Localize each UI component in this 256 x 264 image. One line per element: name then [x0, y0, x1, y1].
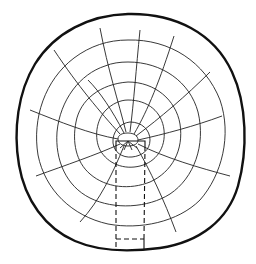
- ray: [36, 144, 120, 176]
- bark-outline: [17, 14, 245, 250]
- tree-cross-section-diagram: [0, 0, 256, 264]
- ray: [130, 30, 140, 132]
- pith-ring: [118, 133, 138, 146]
- ray: [30, 110, 118, 139]
- ray: [54, 50, 120, 134]
- ring-4: [75, 82, 181, 187]
- sample-strip: [116, 146, 145, 249]
- ray: [88, 80, 124, 133]
- ring-2: [113, 122, 150, 157]
- ray: [134, 36, 174, 134]
- growth-rings: [37, 40, 226, 226]
- radial-rays: [30, 28, 230, 232]
- ray: [138, 116, 222, 140]
